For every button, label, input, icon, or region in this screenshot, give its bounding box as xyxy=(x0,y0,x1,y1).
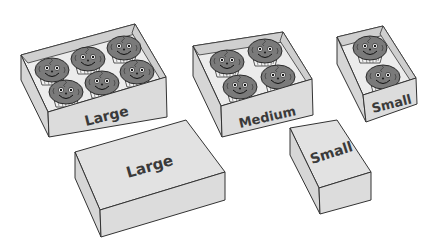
closed-box-large: Large xyxy=(75,120,225,237)
closed-box-small: Small xyxy=(290,120,371,214)
open-box-small: Small xyxy=(337,26,417,122)
open-box-medium: Medium xyxy=(193,32,313,137)
muffin-boxes-diagram: Large Medium Small Large Small xyxy=(0,0,434,248)
open-box-large: Large xyxy=(21,24,167,137)
